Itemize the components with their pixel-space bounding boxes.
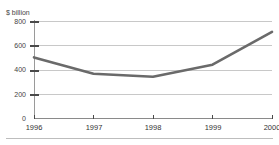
x-tick-mark-1999 bbox=[212, 115, 213, 119]
x-tick-mark-1997 bbox=[93, 115, 94, 119]
x-tick-label-1997: 1997 bbox=[74, 124, 114, 132]
y-tick-label-400: 400 bbox=[0, 66, 26, 73]
y-tick-label-800: 800 bbox=[0, 18, 26, 25]
gridline-400 bbox=[34, 70, 272, 71]
y-tick-mark-800 bbox=[30, 21, 39, 23]
x-tick-label-2000: 2000 bbox=[252, 124, 279, 132]
x-tick-mark-2000 bbox=[272, 115, 273, 119]
y-tick-mark-200 bbox=[30, 94, 39, 96]
y-tick-label-200: 200 bbox=[0, 91, 26, 98]
x-tick-label-1999: 1999 bbox=[193, 124, 233, 132]
bottom-divider bbox=[6, 138, 273, 139]
x-tick-mark-1996 bbox=[34, 115, 35, 119]
y-axis-unit-label: $ billion bbox=[6, 9, 30, 16]
gridline-800 bbox=[34, 21, 272, 22]
gridline-200 bbox=[34, 94, 272, 95]
y-tick-mark-400 bbox=[30, 70, 39, 72]
x-tick-label-1996: 1996 bbox=[14, 124, 54, 132]
x-tick-mark-1998 bbox=[153, 115, 154, 119]
x-tick-label-1998: 1998 bbox=[133, 124, 173, 132]
chart-title bbox=[0, 0, 279, 2]
chart-figure: $ billion 800 600 400 200 0 1996 1997 19… bbox=[0, 0, 279, 145]
gridline-600 bbox=[34, 45, 272, 46]
y-tick-label-0: 0 bbox=[0, 115, 26, 122]
plot-area bbox=[34, 21, 272, 118]
y-tick-label-600: 600 bbox=[0, 42, 26, 49]
y-tick-mark-600 bbox=[30, 45, 39, 47]
